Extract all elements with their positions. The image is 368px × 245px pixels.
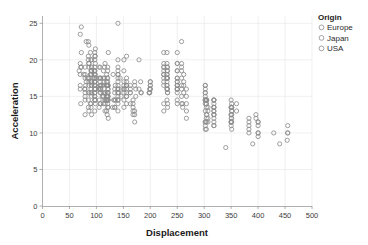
x-tick-label: 200	[144, 211, 157, 220]
y-tick-label: 0	[33, 202, 37, 211]
legend-item-label: USA	[327, 44, 344, 53]
y-axis-title: Acceleration	[9, 82, 20, 139]
y-tick-label: 20	[29, 56, 37, 65]
x-tick-label: 150	[117, 211, 130, 220]
x-tick-label: 50	[65, 211, 73, 220]
y-tick-label: 15	[29, 92, 37, 101]
x-tick-label: 250	[171, 211, 184, 220]
y-tick-label: 25	[29, 19, 37, 28]
x-tick-label: 0	[40, 211, 44, 220]
legend-marker-icon	[319, 46, 324, 51]
legend-marker-icon	[319, 36, 324, 41]
x-tick-label: 300	[198, 211, 211, 220]
legend-title: Origin	[318, 13, 342, 22]
x-tick-label: 100	[90, 211, 103, 220]
x-tick-label: 350	[225, 211, 238, 220]
legend-marker-icon	[319, 25, 324, 30]
x-axis-title: Displacement	[146, 227, 209, 238]
y-tick-label: 10	[29, 129, 37, 138]
y-tick-label: 5	[33, 165, 37, 174]
x-tick-label: 500	[306, 211, 319, 220]
legend-item-label: Japan	[327, 34, 349, 43]
legend-item-label: Europe	[327, 23, 353, 32]
x-tick-label: 450	[279, 211, 292, 220]
scatter-chart-figure: 0510152025 05010015020025030035040045050…	[0, 0, 368, 245]
chart-background	[0, 0, 368, 245]
x-tick-label: 400	[252, 211, 265, 220]
chart-svg: 0510152025 05010015020025030035040045050…	[0, 0, 368, 245]
